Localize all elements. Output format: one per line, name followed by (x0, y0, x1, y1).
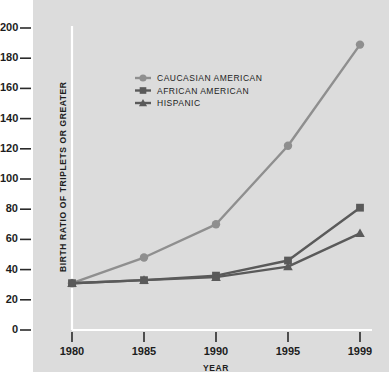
circle-marker-icon (212, 220, 220, 228)
legend-marker-layer (135, 74, 151, 106)
circle-marker-icon (139, 74, 146, 81)
axis-lines (72, 26, 372, 330)
square-marker-icon (140, 87, 147, 94)
y-axis-ticks (20, 28, 31, 330)
x-axis-ticks (72, 332, 360, 342)
chart-figure: 020406080100120140160180200 198019851990… (0, 0, 389, 388)
square-marker-icon (356, 204, 364, 212)
plot-canvas (0, 0, 389, 388)
circle-marker-icon (284, 142, 292, 150)
series-1 (68, 40, 364, 287)
data-series-layer (67, 40, 365, 287)
circle-marker-icon (140, 253, 148, 261)
triangle-marker-icon (355, 229, 365, 238)
circle-marker-icon (356, 40, 364, 48)
series-line (72, 45, 360, 284)
